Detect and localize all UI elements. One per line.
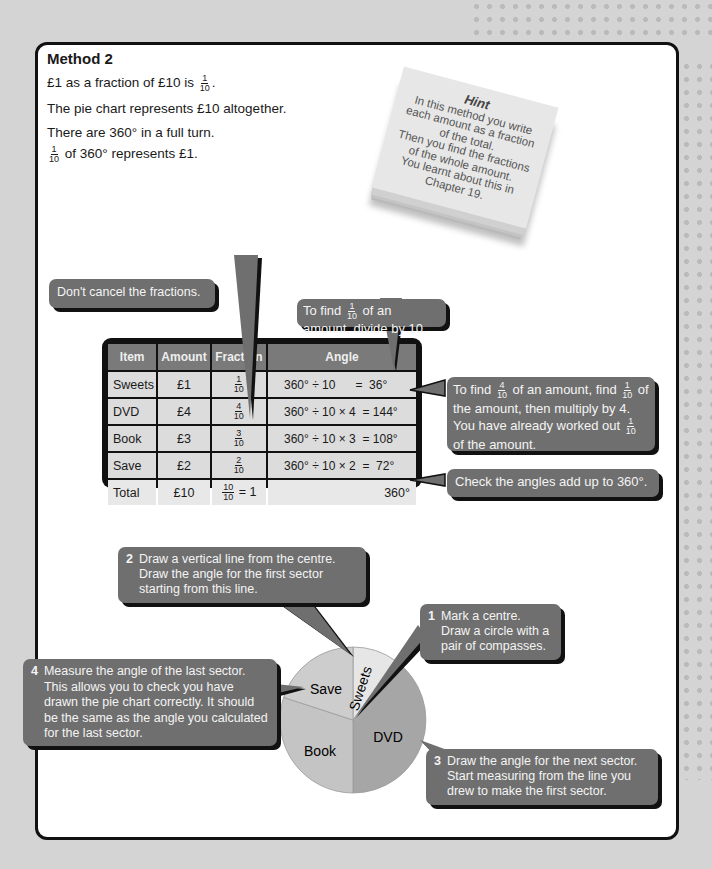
callout-find-tenth: To find 110 of an amount, divide by 10.	[297, 299, 446, 327]
pie-chart: Sweets DVD Book Save	[280, 647, 426, 793]
callout-check-angles: Check the angles add up to 360°.	[447, 469, 659, 497]
callout-step-2: 2Draw a vertical line from the centre. D…	[118, 547, 366, 603]
pie-label-save: Save	[310, 681, 342, 697]
callout-step-1: 1Mark a centre. Draw a circle with a pai…	[420, 604, 561, 660]
callout-step-4: 4Measure the angle of the last sector. T…	[23, 659, 277, 746]
callout-dont-cancel: Don't cancel the fractions.	[49, 279, 215, 308]
callout-step-3: 3Draw the angle for the next sector. Sta…	[426, 749, 658, 805]
pie-label-book: Book	[304, 743, 337, 759]
callout-find-four-tenths: To find 410 of an amount, find 110 of th…	[447, 377, 655, 451]
pie-label-dvd: DVD	[373, 729, 403, 745]
